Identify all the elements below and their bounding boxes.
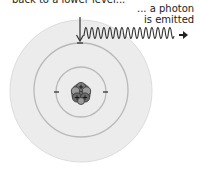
right-arrow-icon	[179, 31, 188, 39]
atom-diagram	[0, 0, 199, 175]
